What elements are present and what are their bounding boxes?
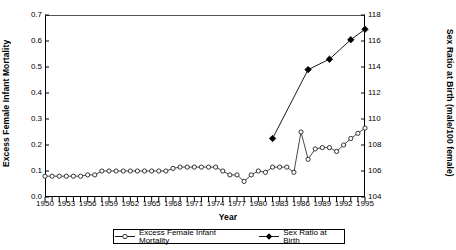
data-point-marker xyxy=(206,165,210,169)
open-circle-icon xyxy=(114,232,136,241)
y-axis-left-tick-label: 0.1 xyxy=(20,167,42,175)
data-point-marker xyxy=(228,173,232,177)
data-point-marker xyxy=(305,66,311,72)
series-line xyxy=(273,29,365,138)
data-point-marker xyxy=(320,146,324,150)
data-point-marker xyxy=(249,173,253,177)
data-point-marker xyxy=(64,174,68,178)
x-axis-tick-label: 1995 xyxy=(350,200,380,208)
data-point-marker xyxy=(178,165,182,169)
legend-item-label: Sex Ratio at Birth xyxy=(283,229,344,245)
data-point-marker xyxy=(292,170,296,174)
chart-legend: Excess Female Infant MortalitySex Ratio … xyxy=(113,229,345,244)
data-point-marker xyxy=(43,174,47,178)
series-sex-ratio xyxy=(269,26,368,142)
data-point-marker xyxy=(157,169,161,173)
data-point-marker xyxy=(100,169,104,173)
plot-area xyxy=(45,15,365,197)
data-point-marker xyxy=(214,165,218,169)
y-axis-right-ticks: 104106108110112114116118 xyxy=(368,0,394,212)
series-excess-mortality xyxy=(43,126,367,183)
data-point-marker xyxy=(263,170,267,174)
data-point-marker xyxy=(313,147,317,151)
data-point-marker xyxy=(50,174,54,178)
data-point-marker xyxy=(235,173,239,177)
data-point-marker xyxy=(221,169,225,173)
x-axis-title: Year xyxy=(0,212,456,222)
y-axis-right-tick-label: 118 xyxy=(368,11,392,19)
data-point-marker xyxy=(142,169,146,173)
y-axis-left-tick-label: 0.2 xyxy=(20,141,42,149)
data-point-marker xyxy=(86,173,90,177)
data-point-marker xyxy=(128,169,132,173)
data-point-marker xyxy=(93,173,97,177)
data-point-marker xyxy=(342,143,346,147)
data-point-marker xyxy=(135,169,139,173)
data-point-marker xyxy=(199,165,203,169)
y-axis-right-tick-label: 110 xyxy=(368,115,392,123)
data-point-marker xyxy=(192,165,196,169)
data-point-marker xyxy=(242,179,246,183)
data-point-marker xyxy=(171,166,175,170)
data-point-marker xyxy=(363,126,367,130)
y-axis-right-tick-label: 116 xyxy=(368,37,392,45)
y-axis-left-ticks: 0.00.10.20.30.40.50.60.7 xyxy=(18,0,42,212)
y-axis-right-tick-label: 106 xyxy=(368,167,392,175)
data-point-marker xyxy=(150,169,154,173)
data-point-marker xyxy=(107,169,111,173)
data-point-marker xyxy=(114,169,118,173)
filled-diamond-icon xyxy=(258,232,280,241)
legend-item-label: Excess Female Infant Mortality xyxy=(139,229,246,245)
y-axis-left-tick-label: 0.7 xyxy=(20,11,42,19)
data-point-marker xyxy=(269,135,275,141)
data-point-marker xyxy=(121,169,125,173)
data-point-marker xyxy=(57,174,61,178)
y-axis-left-tick-label: 0.3 xyxy=(20,115,42,123)
y-axis-right-tick-label: 112 xyxy=(368,89,392,97)
data-point-marker xyxy=(356,131,360,135)
y-axis-right-tick-label: 108 xyxy=(368,141,392,149)
data-point-marker xyxy=(270,165,274,169)
data-point-marker xyxy=(306,157,310,161)
data-point-marker xyxy=(299,130,303,134)
data-point-marker xyxy=(164,169,168,173)
y-axis-title-right: Sex Ratio at Birth (male/100 female) xyxy=(443,10,456,196)
y-axis-title-left: Excess Female Infant Mortality xyxy=(0,18,13,188)
y-axis-right-tick-label: 114 xyxy=(368,63,392,71)
data-point-marker xyxy=(256,169,260,173)
y-axis-left-tick-label: 0.6 xyxy=(20,37,42,45)
data-point-marker xyxy=(185,165,189,169)
data-point-marker xyxy=(327,146,331,150)
y-axis-left-tick-label: 0.4 xyxy=(20,89,42,97)
data-point-marker xyxy=(285,165,289,169)
chart-container: Excess Female Infant Mortality Sex Ratio… xyxy=(0,0,456,250)
x-axis-ticks: 1950195319561959196219651968197119741977… xyxy=(45,198,365,212)
data-point-marker xyxy=(278,165,282,169)
legend-item[interactable]: Excess Female Infant Mortality xyxy=(114,229,246,245)
data-point-marker xyxy=(349,136,353,140)
legend-item[interactable]: Sex Ratio at Birth xyxy=(258,229,344,245)
data-point-marker xyxy=(78,174,82,178)
data-point-marker xyxy=(71,174,75,178)
y-axis-left-tick-label: 0.5 xyxy=(20,63,42,71)
data-point-marker xyxy=(334,149,338,153)
